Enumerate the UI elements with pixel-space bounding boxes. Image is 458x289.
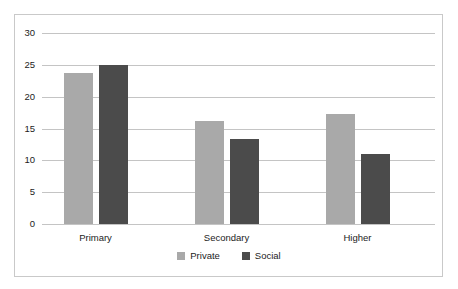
y-axis-tick-label: 10 [24, 156, 35, 166]
bar-secondary-social [230, 139, 259, 224]
x-axis-category-label-primary: Primary [79, 233, 112, 243]
x-axis-category-label-higher: Higher [344, 233, 372, 243]
chart-legend: PrivateSocial [0, 251, 458, 261]
bar-secondary-private [195, 121, 224, 224]
y-axis-tick-label: 20 [24, 92, 35, 102]
legend-label: Private [190, 251, 220, 261]
y-axis-tick-label: 0 [30, 219, 35, 229]
y-axis-tick-label: 30 [24, 28, 35, 38]
bar-chart-figure: 051015202530 PrimarySecondaryHigher Priv… [0, 0, 458, 289]
gridline-0 [42, 224, 435, 225]
y-axis-tick-label: 15 [24, 124, 35, 134]
plot-area: 051015202530 PrimarySecondaryHigher [42, 33, 435, 224]
legend-swatch-icon-private [177, 252, 185, 260]
x-axis-category-label-secondary: Secondary [204, 233, 249, 243]
legend-swatch-icon-social [242, 252, 250, 260]
gridline-30 [42, 33, 435, 34]
legend-label: Social [255, 251, 281, 261]
legend-item-private[interactable]: Private [177, 251, 220, 261]
y-axis-tick-label: 5 [30, 187, 35, 197]
bar-primary-social [99, 65, 128, 224]
bar-higher-private [326, 114, 355, 224]
legend-item-social[interactable]: Social [242, 251, 281, 261]
bar-higher-social [361, 154, 390, 224]
y-axis-tick-label: 25 [24, 60, 35, 70]
bar-primary-private [64, 73, 93, 224]
